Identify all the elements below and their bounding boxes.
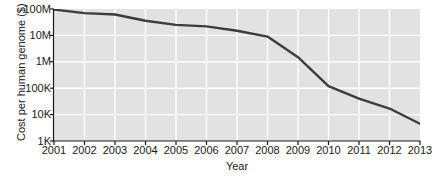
plot-svg [54, 9, 420, 141]
y-tick-label: 10M [17, 30, 51, 41]
vertical-gridlines [85, 9, 390, 141]
y-tick-label: 1M [17, 56, 51, 67]
y-tick-label: 10K [17, 109, 51, 120]
x-tick-label: 2013 [400, 144, 440, 157]
x-axis-title: Year [54, 160, 420, 173]
y-tick-label: 100M [17, 4, 51, 15]
chart-figure: Cost per human genome ($) 100M10M1M100K1… [0, 0, 441, 181]
y-tick-label: 100K [17, 83, 51, 94]
x-axis-tick-labels: 2001200220032004200520062007200820092010… [0, 144, 441, 158]
plot-area [54, 9, 420, 141]
